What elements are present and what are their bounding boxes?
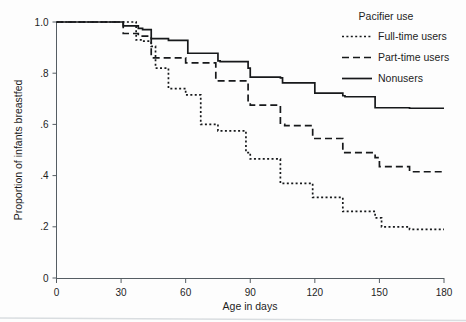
legend-label-part-time-users: Part-time users — [378, 51, 449, 63]
x-tick-label: 180 — [436, 287, 453, 298]
bottom-edge-rule — [0, 318, 466, 321]
x-tick-label: 150 — [371, 287, 388, 298]
legend: Pacifier use Full-time usersPart-time us… — [342, 10, 449, 84]
y-tick-label: .4 — [40, 170, 49, 181]
y-tick-label: 0 — [43, 273, 49, 284]
y-axis-title: Proportion of infants breastfed — [12, 80, 24, 221]
y-tick-label: .8 — [40, 68, 49, 79]
y-tick-label: .2 — [40, 221, 49, 232]
x-axis-title: Age in days — [223, 300, 278, 312]
y-axis-ticks: 0.2.4.6.81.0 — [35, 17, 57, 284]
survival-curve-chart: 0.2.4.6.81.0 0306090120150180 Age in day… — [0, 0, 466, 322]
legend-label-nonusers: Nonusers — [378, 72, 423, 84]
chart-figure: 0.2.4.6.81.0 0306090120150180 Age in day… — [0, 0, 466, 322]
x-tick-label: 0 — [54, 287, 60, 298]
x-tick-label: 60 — [180, 287, 192, 298]
series-line-part-time-users — [57, 22, 445, 173]
x-tick-label: 90 — [245, 287, 257, 298]
legend-label-full-time-users: Full-time users — [378, 30, 447, 42]
legend-title: Pacifier use — [359, 10, 414, 22]
x-tick-label: 30 — [116, 287, 128, 298]
y-tick-label: .6 — [40, 119, 49, 130]
x-axis-ticks: 0306090120150180 — [54, 278, 453, 298]
y-tick-label: 1.0 — [35, 17, 49, 28]
x-tick-label: 120 — [306, 287, 323, 298]
